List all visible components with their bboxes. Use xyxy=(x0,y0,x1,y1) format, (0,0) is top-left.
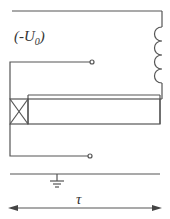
voltage-label: (-U0) xyxy=(14,28,45,47)
double-arrow-icon xyxy=(8,205,162,211)
transmission-line-rect xyxy=(28,99,160,124)
circuit-diagram: (-U0) τ xyxy=(0,0,170,219)
tau-label: τ xyxy=(76,191,82,207)
inductor-coil-icon xyxy=(155,27,163,83)
upper-terminal-wire xyxy=(10,62,90,99)
ground-icon xyxy=(50,174,64,187)
upper-terminal-icon[interactable] xyxy=(90,60,94,64)
lower-terminal-wire xyxy=(10,124,88,156)
lower-terminal-icon[interactable] xyxy=(88,154,92,158)
